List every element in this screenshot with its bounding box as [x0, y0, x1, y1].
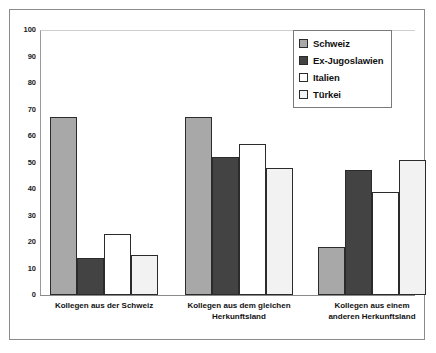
y-axis-tick-label: 0: [10, 291, 36, 299]
y-axis-tick-label: 10: [10, 265, 36, 273]
bar-group: [185, 30, 293, 295]
bar: [239, 144, 266, 295]
bar-group: [318, 30, 426, 295]
bar: [318, 247, 345, 295]
bar: [104, 234, 131, 295]
y-axis-tick-label: 90: [10, 53, 36, 61]
y-axis-tick-label: 80: [10, 79, 36, 87]
y-axis-tick-label: 70: [10, 106, 36, 114]
x-axis-category-label-line: anderen Herkunftsland: [292, 311, 436, 322]
bar-chart: 1009080706050403020100 SchweizEx-Jugosla…: [0, 0, 436, 353]
bar: [345, 170, 372, 295]
bar-group: [50, 30, 158, 295]
y-axis-tick-label: 50: [10, 159, 36, 167]
x-axis-category-label: Kollegen aus einemanderen Herkunftsland: [292, 300, 436, 322]
y-axis-tick-label: 100: [10, 26, 36, 34]
legend-swatch-icon: [299, 39, 308, 48]
legend-swatch-icon: [299, 56, 308, 65]
bar: [131, 255, 158, 295]
bar: [50, 117, 77, 295]
bar: [399, 160, 426, 295]
bar: [266, 168, 293, 295]
bar: [185, 117, 212, 295]
y-axis-tick-label: 20: [10, 238, 36, 246]
y-axis-tick-label: 60: [10, 132, 36, 140]
bar: [372, 192, 399, 295]
y-axis-tick-label: 40: [10, 185, 36, 193]
y-axis-tick-label: 30: [10, 212, 36, 220]
bar: [77, 258, 104, 295]
x-axis-category-label-line: Kollegen aus einem: [292, 300, 436, 311]
x-axis-baseline: [40, 295, 415, 296]
legend-swatch-icon: [299, 73, 308, 82]
legend-swatch-icon: [299, 90, 308, 99]
bar: [212, 157, 239, 295]
